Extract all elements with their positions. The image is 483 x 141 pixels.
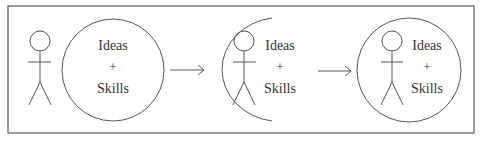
stick-figure-icon	[381, 31, 403, 105]
ideas-label: Ideas	[412, 38, 442, 53]
diagram-canvas: Ideas + Skills Ideas + Skills	[0, 0, 483, 141]
plus-label: +	[276, 59, 283, 74]
plus-label: +	[109, 59, 116, 74]
arrow-right-icon	[170, 65, 204, 75]
ideas-label: Ideas	[265, 38, 295, 53]
panel-separate: Ideas + Skills	[28, 19, 164, 121]
arrow-right-icon	[318, 66, 351, 76]
diagram-frame	[8, 6, 474, 133]
stick-figure-icon	[233, 31, 256, 105]
ideas-label: Ideas	[98, 38, 128, 53]
panel-integrated: Ideas + Skills	[357, 18, 461, 122]
open-arc	[222, 18, 272, 121]
plus-label: +	[423, 59, 430, 74]
skills-label: Skills	[264, 81, 296, 96]
panel-partial: Ideas + Skills	[222, 18, 296, 121]
skills-label: Skills	[97, 81, 129, 96]
skills-label: Skills	[411, 81, 443, 96]
ideas-skills-circle	[357, 18, 461, 122]
stick-figure-icon	[28, 31, 51, 105]
